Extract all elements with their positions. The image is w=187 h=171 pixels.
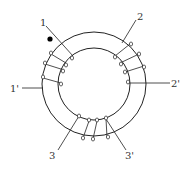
toroid-diagram: 1 1' 2 2' 3 3': [0, 0, 187, 171]
label-terminal-2-prime: 2': [171, 78, 180, 89]
polarity-dot-icon: [47, 36, 52, 41]
winding-2: [113, 20, 170, 84]
label-terminal-1: 1: [40, 17, 46, 28]
winding-1: [22, 26, 74, 88]
label-terminal-3: 3: [49, 150, 55, 161]
winding-3: [58, 114, 126, 150]
label-terminal-3-prime: 3': [125, 150, 134, 161]
label-terminal-1-prime: 1': [10, 83, 19, 94]
label-terminal-2: 2: [137, 11, 143, 22]
core-inner-circle: [58, 48, 130, 120]
